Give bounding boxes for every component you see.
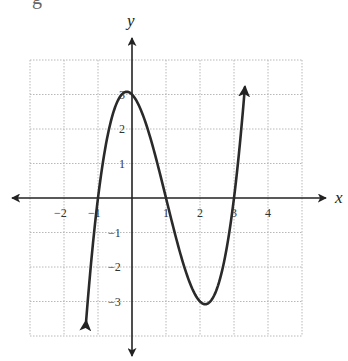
y-tick-label: −2 <box>108 260 121 274</box>
y-tick-label: −3 <box>108 295 121 309</box>
x-tick-label: −2 <box>54 206 67 220</box>
function-curve <box>86 87 245 321</box>
y-tick-label: 2 <box>119 122 125 136</box>
x-tick-labels: −2−11234 <box>54 206 271 220</box>
y-tick-label: 1 <box>119 157 125 171</box>
cubic-function-graph: x y −2−11234 321−1−2−3 <box>0 0 348 361</box>
x-tick-label: 4 <box>265 206 271 220</box>
x-axis-label: x <box>334 188 343 207</box>
y-axis-label: y <box>125 11 135 30</box>
x-tick-label: 2 <box>197 206 203 220</box>
y-tick-label: −1 <box>108 226 121 240</box>
